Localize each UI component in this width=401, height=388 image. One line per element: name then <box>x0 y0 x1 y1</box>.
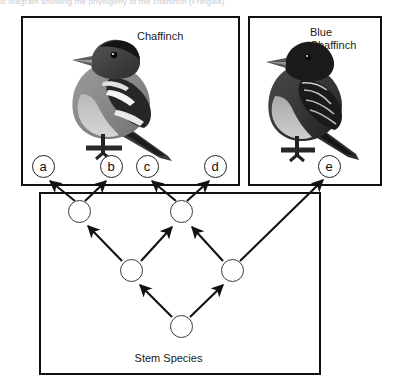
taxon-circle-e[interactable]: e <box>318 155 341 178</box>
chaffinch-bird-icon <box>56 22 174 164</box>
phylogeny-figure: ic diagram showing the phylogeny of the … <box>0 0 401 388</box>
stem-species-label: Stem Species <box>0 352 401 364</box>
node-mid-right[interactable] <box>221 259 244 282</box>
stem-species-label-text: Stem Species <box>135 352 203 364</box>
top-caption-text: ic diagram showing the phylogeny of the … <box>0 0 225 6</box>
taxon-label-e: e <box>325 159 332 174</box>
top-caption-fragment: ic diagram showing the phylogeny of the … <box>0 0 401 9</box>
chaffinch-label: Chaffinch <box>137 30 183 43</box>
taxon-label-d: d <box>211 159 218 174</box>
taxon-label-c: c <box>144 159 151 174</box>
blue-chaffinch-label: Blue Chaffinch <box>310 26 356 52</box>
taxon-label-a: a <box>39 159 46 174</box>
taxon-label-b: b <box>107 159 114 174</box>
taxon-circle-d[interactable]: d <box>204 155 227 178</box>
node-upper-left[interactable] <box>68 200 91 223</box>
taxon-circle-a[interactable]: a <box>32 155 55 178</box>
node-root[interactable] <box>170 315 193 338</box>
node-upper-middle[interactable] <box>170 200 193 223</box>
taxon-circle-c[interactable]: c <box>136 155 159 178</box>
node-mid-left[interactable] <box>120 259 143 282</box>
taxon-circle-b[interactable]: b <box>100 155 123 178</box>
